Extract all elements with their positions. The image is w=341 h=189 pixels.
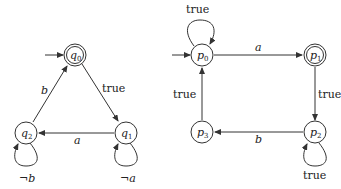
state-p3: p3 — [191, 121, 213, 143]
edge-label-q1-self: ¬a — [120, 172, 136, 185]
self-loop-q1 — [115, 143, 138, 166]
edge-label-q2-self: ¬b — [19, 172, 35, 185]
right-automaton: true a true b true true p0 p1 p2 — [172, 3, 341, 182]
edge-label-q0-q1: true — [102, 82, 125, 95]
self-loop-p2 — [304, 143, 327, 166]
left-automaton: true a b ¬a ¬b q0 q1 q2 — [15, 44, 138, 185]
edge-q2-q0 — [33, 66, 67, 122]
edge-label-q1-q2: a — [74, 134, 81, 147]
state-q1: q1 — [115, 122, 137, 144]
automata-diagram: true a b ¬a ¬b q0 q1 q2 — [0, 0, 341, 189]
self-loop-p0 — [187, 20, 214, 46]
self-loop-q2 — [15, 143, 38, 166]
edge-label-p0-p1: a — [255, 41, 262, 54]
state-q0: q0 — [64, 44, 86, 66]
state-p2: p2 — [304, 121, 326, 143]
edge-label-p2-p3: b — [255, 133, 262, 146]
state-p0: p0 — [191, 44, 213, 66]
state-p1: p1 — [304, 44, 326, 66]
edge-label-p3-p0: true — [173, 88, 196, 101]
edge-label-p0-self: true — [186, 3, 209, 16]
edge-label-p2-self: true — [303, 169, 326, 182]
state-q2: q2 — [15, 122, 37, 144]
edge-label-p1-p2: true — [318, 88, 341, 101]
edge-label-q2-q0: b — [41, 84, 48, 97]
